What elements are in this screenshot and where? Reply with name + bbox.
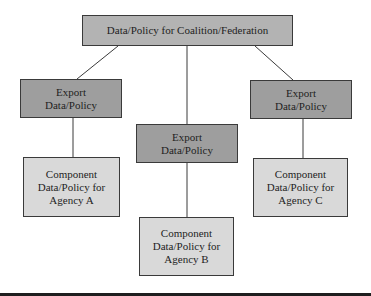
component-node-agency-a: Component Data/Policy for Agency A xyxy=(23,157,120,217)
root-node-coalition-federation: Data/Policy for Coalition/Federation xyxy=(82,15,293,46)
export-node-line2: Data/Policy xyxy=(275,100,327,113)
component-node-line3: Agency C xyxy=(278,194,322,207)
export-node-line2: Data/Policy xyxy=(45,99,97,112)
component-node-line1: Component xyxy=(275,168,326,181)
component-node-line2: Data/Policy for xyxy=(267,181,335,194)
component-node-line2: Data/Policy for xyxy=(153,240,221,253)
component-node-line3: Agency B xyxy=(164,253,208,266)
root-node-label: Data/Policy for Coalition/Federation xyxy=(107,24,268,37)
component-node-line1: Component xyxy=(161,227,212,240)
export-node-line2: Data/Policy xyxy=(161,144,213,157)
component-node-agency-b: Component Data/Policy for Agency B xyxy=(139,217,234,276)
component-node-line1: Component xyxy=(46,168,97,181)
export-node-middle: Export Data/Policy xyxy=(136,124,238,163)
component-node-agency-c: Component Data/Policy for Agency C xyxy=(253,158,348,217)
component-node-line2: Data/Policy for xyxy=(38,181,106,194)
export-node-line1: Export xyxy=(172,131,202,144)
component-node-line3: Agency A xyxy=(49,194,93,207)
export-node-line1: Export xyxy=(286,87,316,100)
edge-root-to-export-right xyxy=(255,46,293,80)
edge-root-to-export-left xyxy=(77,46,118,79)
export-node-line1: Export xyxy=(56,86,86,99)
export-node-right: Export Data/Policy xyxy=(250,80,352,119)
export-node-left: Export Data/Policy xyxy=(20,79,122,118)
